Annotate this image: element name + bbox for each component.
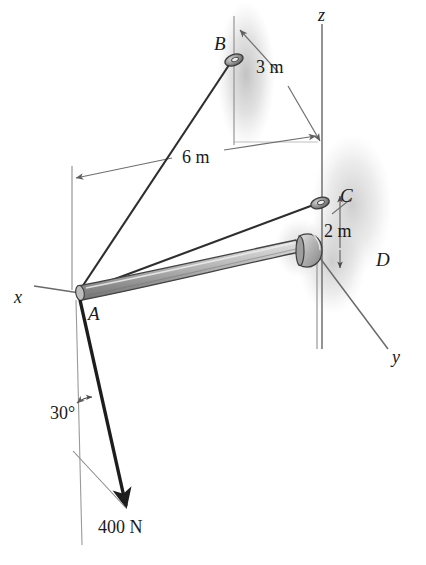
dimension-label-2m: 2 m <box>324 222 352 240</box>
axis-label-x: x <box>14 288 22 306</box>
point-label-d: D <box>376 250 390 269</box>
axis-label-y: y <box>392 348 400 366</box>
axis-x <box>34 286 80 293</box>
construction-line-through-a <box>72 166 82 545</box>
boom-ad <box>75 240 300 301</box>
dimension-label-6m: 6 m <box>182 148 210 166</box>
force-vector-400n <box>73 300 126 508</box>
diagram-canvas <box>0 0 426 565</box>
axis-label-z: z <box>318 6 325 24</box>
point-label-a: A <box>88 304 100 323</box>
point-label-c: C <box>340 186 353 205</box>
cable-ab <box>80 62 231 290</box>
angle-label-30deg: 30° <box>50 404 75 422</box>
statics-diagram-figure: B C D A z y x 3 m 6 m 2 m 30° 400 N <box>0 0 426 565</box>
force-label-400n: 400 N <box>98 518 143 536</box>
angle-arc-30deg <box>77 397 92 403</box>
ball-socket-joint-d <box>296 233 322 267</box>
point-label-b: B <box>214 34 226 53</box>
dimension-label-3m: 3 m <box>256 58 284 76</box>
